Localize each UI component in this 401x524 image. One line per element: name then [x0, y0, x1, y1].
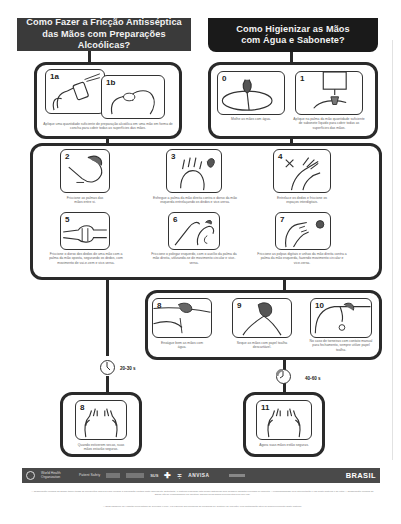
step-0: 0	[217, 71, 285, 115]
safe-hands-icon	[76, 401, 126, 439]
anvisa-logo: ANVISA	[188, 473, 209, 478]
connector	[283, 384, 286, 392]
backs-of-fingers-icon	[61, 213, 109, 249]
step-7-caption: Friccione as polpas digitais e unhas da …	[257, 252, 347, 265]
page-edge	[392, 40, 393, 460]
anvisa-emblem-icon: ≑	[177, 472, 182, 479]
step-11: 11	[256, 400, 312, 440]
common-steps-frame: 2 Friccione as palmas das mãos entre si.…	[30, 143, 382, 280]
thumb-rotation-icon	[169, 213, 219, 249]
handwash-header: Como Higienizar as Mãos com Água e Sabon…	[208, 18, 378, 52]
dry-hands-towel-icon	[233, 299, 291, 337]
handwash-title: Como Higienizar as Mãos com Água e Sabon…	[233, 24, 353, 47]
logo-band: World Health Organization Patient Safety…	[22, 468, 380, 483]
step-10-soap-caption: No caso de torneiras com contato manual …	[308, 339, 374, 352]
step-2-caption: Friccione as palmas das mãos entre si.	[65, 196, 105, 205]
alcohol-rub-title: Como Fazer a Fricção Antisséptica das Mã…	[24, 17, 184, 52]
step-8-soap-caption: Enxágue bem as mãos com água.	[158, 341, 206, 350]
step-3: 3	[166, 149, 222, 193]
dispense-alcohol-icon	[46, 70, 104, 113]
disclaimer-text: A Organização Mundial da Saúde tomou tod…	[30, 490, 375, 496]
step-2: 2	[60, 149, 110, 193]
fingers-interlaced-icon	[274, 150, 330, 192]
step-11-caption: Agora suas mãos estão seguras.	[256, 443, 312, 447]
timer-alcohol-icon	[100, 360, 115, 375]
step-9-soap-caption: Seque as mãos com papel toalha descartáv…	[236, 341, 288, 350]
step-6: 6	[168, 212, 220, 250]
step-10-soap: 10	[310, 298, 372, 338]
cross-icon: ✚	[164, 472, 171, 480]
sus-logo: SUS	[150, 474, 158, 478]
acknowledgement-text: A OMS agradece ao Hospital Universitário…	[30, 505, 375, 508]
who-logo: World Health Organization	[41, 472, 73, 480]
connector	[106, 280, 109, 356]
safe-hands-icon	[257, 401, 311, 439]
step-8-alcohol-caption: Quando estiverem secas, suas mãos estarã…	[77, 443, 125, 452]
alcohol-start-frame: 1a 1b Aplique uma quantidade suficiente …	[34, 62, 182, 139]
step-8-soap: 8	[152, 298, 212, 338]
step-1a: 1a	[45, 69, 105, 114]
interlaced-back-icon	[167, 150, 221, 192]
timer-alcohol-label: 20-30 s	[120, 366, 136, 371]
palm-to-palm-icon	[61, 150, 109, 192]
step-9-soap: 9	[232, 298, 292, 338]
step-0-caption: Molhe as mãos com água.	[217, 117, 285, 121]
step-5: 5	[60, 212, 110, 250]
step-1-caption: Aplique uma quantidade suficiente de pre…	[43, 122, 173, 131]
cupped-hand-icon	[102, 76, 164, 118]
close-tap-towel-icon	[311, 299, 371, 337]
ministry-logo-icon	[229, 474, 245, 477]
wet-hands-sink-icon	[218, 72, 284, 114]
step-1-soap-caption: Aplique na palma da mão quantidade sufic…	[293, 117, 365, 130]
timer-handwash-icon	[276, 369, 291, 384]
handwash-finish-frame: 8 Enxágue bem as mãos com água. 9 Seque …	[145, 290, 382, 360]
step-7: 7	[275, 212, 331, 250]
step-6-caption: Friccione o polegar esquerdo, com o auxí…	[151, 252, 237, 265]
step-3-caption: Esfregue a palma da mão direita contra o…	[151, 196, 239, 205]
partner-logo-icon	[126, 473, 144, 478]
handwash-end-frame: 11 Agora suas mãos estão seguras.	[243, 392, 325, 457]
step-5-caption: Friccione o dorso dos dedos de uma mão c…	[45, 252, 127, 265]
step-1b: 1b	[101, 75, 165, 119]
who-emblem-icon	[26, 471, 35, 480]
handwash-start-frame: 0 Molhe as mãos com água. 1 Aplique na p…	[208, 62, 378, 139]
brasil-logo: BRASIL	[346, 471, 376, 480]
step-4-caption: Entrelace os dedos e friccione os espaço…	[275, 196, 329, 205]
step-4: 4	[273, 149, 331, 193]
rinse-hands-icon	[153, 299, 211, 337]
alcohol-end-frame: 8 Quando estiverem secas, suas mãos esta…	[60, 392, 142, 457]
partner-logo-icon	[106, 473, 120, 478]
fingertips-palm-icon	[276, 213, 330, 249]
patient-safety-logo: Patient Safety	[79, 474, 100, 478]
connector	[106, 376, 109, 392]
step-8-alcohol: 8	[75, 400, 127, 440]
step-1-soap: 1	[295, 71, 363, 115]
alcohol-rub-header: Como Fazer a Fricção Antisséptica das Mã…	[17, 18, 191, 51]
soap-dispenser-icon	[296, 72, 362, 114]
timer-handwash-label: 40-60 s	[305, 376, 321, 381]
